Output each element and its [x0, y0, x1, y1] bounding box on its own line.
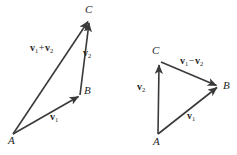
vector-subscript: 2	[142, 86, 145, 93]
vector-operator: −	[188, 55, 195, 66]
vector-operator: +	[38, 42, 45, 53]
point-label-a-right: A	[153, 136, 160, 147]
vector-label-v1-left: v1	[50, 112, 58, 122]
vector-label-v1-right: v1	[187, 111, 195, 121]
vector-subscript: 1	[185, 60, 188, 67]
vector-diagrams-figure: A B C v1 v2 v1+v2 A B C v1 v2 v1−v2	[0, 0, 237, 155]
vector-label-v2-right: v2	[137, 82, 145, 92]
vector-addition-svg	[0, 0, 237, 155]
vector-subscript: 1	[35, 47, 38, 54]
vector-subscript: 2	[88, 52, 91, 59]
vector-subscript-2: 2	[200, 60, 203, 67]
vector-label-v1-minus-v2: v1−v2	[180, 56, 203, 66]
vector-label-v1-plus-v2: v1+v2	[30, 43, 53, 53]
vector-subscript: 1	[192, 115, 195, 122]
subtraction-vectors	[158, 62, 217, 134]
vector-label-v2-left: v2	[83, 48, 91, 58]
point-label-a-left: A	[8, 135, 15, 146]
point-label-c-left: C	[85, 4, 92, 15]
vector-v2-arrow	[158, 65, 159, 134]
vector-subscript: 1	[55, 116, 58, 123]
point-label-c-right: C	[152, 45, 159, 56]
point-label-b-right: B	[223, 80, 230, 91]
vector-v1-arrow	[13, 97, 79, 135]
point-label-b-left: B	[84, 85, 91, 96]
vector-subscript-2: 2	[50, 47, 53, 54]
